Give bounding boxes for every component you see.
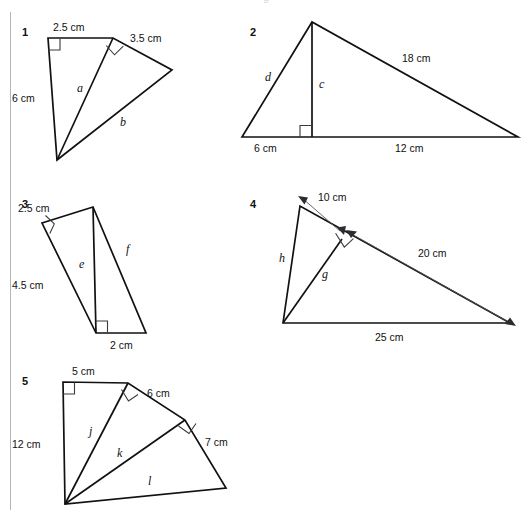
arrowhead xyxy=(337,226,346,235)
figure-5-label-right: 7 cm xyxy=(205,436,228,448)
figure-2-label-c: c xyxy=(319,77,325,91)
right-angle-marker xyxy=(300,126,311,138)
figure-4-label-g: g xyxy=(322,267,328,281)
figure-3: 2.5 cm 4.5 cm e f 2 cm xyxy=(0,185,230,365)
figure-3-segment-e xyxy=(93,207,96,333)
figure-5-segment-k xyxy=(65,420,185,504)
figure-1: 2.5 cm 3.5 cm 6 cm a b xyxy=(0,0,220,185)
right-angle-marker xyxy=(46,216,55,234)
figure-2-outline xyxy=(242,22,518,137)
figure-1-segment-a xyxy=(57,38,113,160)
figure-5-label-left: 12 cm xyxy=(12,438,41,450)
figure-4: 10 cm 20 cm h g 25 cm xyxy=(240,185,532,365)
figure-2-label-d: d xyxy=(265,70,272,84)
right-angle-marker xyxy=(96,321,108,332)
figure-1-label-b: b xyxy=(120,115,126,129)
dimension-arrow-20cm xyxy=(348,232,512,324)
right-angle-marker xyxy=(48,39,60,50)
figure-2-label-hypotenuse: 18 cm xyxy=(402,52,431,64)
figure-4-label-h: h xyxy=(279,251,285,265)
figure-4-label-20cm: 20 cm xyxy=(418,247,447,259)
figure-3-label-left: 4.5 cm xyxy=(12,279,44,291)
figure-4-label-10cm: 10 cm xyxy=(318,191,347,203)
worksheet-page: g 1 2.5 cm 3.5 cm 6 cm a b 2 xyxy=(0,0,532,516)
figure-5-segment-j xyxy=(65,383,128,504)
figure-5-label-upper-right: 6 cm xyxy=(147,387,170,399)
figure-2-label-base-right: 12 cm xyxy=(395,142,424,154)
figure-5-label-l: l xyxy=(148,474,152,488)
figure-1-label-a: a xyxy=(77,81,83,95)
figure-3-label-top: 2.5 cm xyxy=(18,202,50,214)
figure-5-label-top: 5 cm xyxy=(72,365,95,377)
figure-1-label-upper-right: 3.5 cm xyxy=(130,32,162,44)
figure-2: 18 cm d c 6 cm 12 cm xyxy=(230,0,532,185)
figure-2-label-base-left: 6 cm xyxy=(254,142,277,154)
figure-5-label-k: k xyxy=(117,446,123,460)
figure-1-outline xyxy=(48,38,172,160)
arrowhead xyxy=(298,196,308,205)
figure-1-label-top: 2.5 cm xyxy=(53,21,85,33)
figure-4-segment-g xyxy=(283,239,342,323)
figure-4-label-base: 25 cm xyxy=(375,331,404,343)
figure-3-label-f: f xyxy=(126,242,131,256)
figure-1-label-left: 6 cm xyxy=(12,92,35,104)
figure-4-outline xyxy=(283,206,510,323)
figure-3-label-bottom: 2 cm xyxy=(110,339,133,351)
figure-3-label-e: e xyxy=(79,257,85,271)
figure-5-outline xyxy=(63,382,226,504)
figure-5-label-j: j xyxy=(87,424,93,438)
figure-5: 5 cm 6 cm 7 cm 12 cm j k l xyxy=(0,360,260,516)
right-angle-marker xyxy=(63,383,75,394)
